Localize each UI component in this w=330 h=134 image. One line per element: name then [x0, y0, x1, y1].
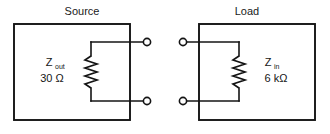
circuit-diagram-canvas: Source Z out 30 Ω Load: [0, 0, 330, 134]
source-bottom-terminal[interactable]: [143, 97, 150, 104]
source-block: Source Z out 30 Ω: [14, 5, 151, 120]
load-title: Load: [235, 5, 259, 17]
source-impedance-subscript: out: [55, 63, 65, 70]
load-box-outline: [199, 24, 315, 120]
load-impedance-value: 6 kΩ: [265, 72, 288, 84]
load-block: Load Z in 6 kΩ: [179, 5, 315, 120]
source-title: Source: [65, 5, 100, 17]
load-bottom-terminal[interactable]: [179, 97, 186, 104]
load-top-terminal[interactable]: [179, 38, 186, 45]
source-resistor-symbol: [85, 56, 97, 88]
source-box-outline: [14, 24, 130, 120]
source-impedance-symbol: Z: [46, 56, 53, 68]
load-resistor-symbol: [233, 56, 245, 88]
circuit-diagram-svg: Source Z out 30 Ω Load: [0, 0, 330, 134]
load-impedance-subscript: in: [274, 63, 280, 70]
load-impedance-symbol: Z: [265, 56, 272, 68]
source-top-terminal[interactable]: [143, 38, 150, 45]
source-impedance-value: 30 Ω: [40, 72, 64, 84]
